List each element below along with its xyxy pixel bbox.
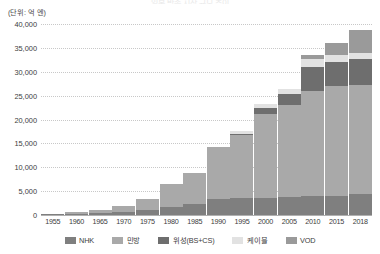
- plot-area: [41, 24, 372, 215]
- bar-column[interactable]: [325, 24, 348, 215]
- x-axis-tick-label: 2018: [349, 217, 372, 229]
- bar-segment[interactable]: [160, 184, 183, 206]
- y-axis-unit-label: (단위: 억 엔): [8, 7, 46, 17]
- bar-column[interactable]: [278, 24, 301, 215]
- chart-legend: NHK민방위성(BS+CS)케이블VOD: [0, 233, 380, 247]
- bar-segment[interactable]: [112, 212, 135, 215]
- x-axis-tick-label: 1955: [41, 217, 64, 229]
- bar-column[interactable]: [301, 24, 324, 215]
- bar-segment[interactable]: [160, 207, 183, 215]
- x-axis-tick-label: 1970: [112, 217, 135, 229]
- bar-column[interactable]: [136, 24, 159, 215]
- x-axis-tick-label: 2000: [254, 217, 277, 229]
- bar-segment[interactable]: [254, 114, 277, 197]
- x-axis-tick-label: 2010: [301, 217, 324, 229]
- legend-swatch-icon: [286, 237, 297, 244]
- bar-column[interactable]: [207, 24, 230, 215]
- bar-segment[interactable]: [254, 198, 277, 215]
- bar-group: [41, 24, 372, 215]
- bar-segment[interactable]: [183, 204, 206, 215]
- bar-segment[interactable]: [183, 173, 206, 204]
- bar-segment[interactable]: [207, 199, 230, 215]
- legend-swatch-icon: [65, 237, 76, 244]
- bar-segment[interactable]: [41, 214, 64, 215]
- bar-segment[interactable]: [325, 55, 348, 62]
- chart-title-cropped: 일본 방송 시장 규모 추이: [0, 0, 380, 4]
- gridline: [41, 215, 372, 216]
- legend-label: 민방: [127, 235, 141, 245]
- legend-item[interactable]: VOD: [286, 236, 316, 245]
- bar-segment[interactable]: [301, 91, 324, 196]
- bar-segment[interactable]: [230, 135, 253, 198]
- bar-segment[interactable]: [301, 196, 324, 215]
- y-axis-tick-label: 10,000: [0, 163, 37, 172]
- x-axis-tick-label: 1995: [230, 217, 253, 229]
- bar-column[interactable]: [41, 24, 64, 215]
- bar-segment[interactable]: [254, 108, 277, 115]
- bar-column[interactable]: [349, 24, 372, 215]
- bar-column[interactable]: [230, 24, 253, 215]
- bar-segment[interactable]: [325, 196, 348, 215]
- bar-column[interactable]: [112, 24, 135, 215]
- bar-segment[interactable]: [325, 86, 348, 195]
- y-axis-tick-label: 30,000: [0, 67, 37, 76]
- bar-segment[interactable]: [301, 67, 324, 91]
- legend-swatch-icon: [112, 237, 123, 244]
- bar-segment[interactable]: [349, 30, 372, 53]
- bar-segment[interactable]: [278, 94, 301, 105]
- bar-segment[interactable]: [65, 214, 88, 215]
- y-axis-tick-label: 40,000: [0, 20, 37, 29]
- x-axis-tick-label: 1990: [207, 217, 230, 229]
- x-axis-ticks: 1955196019651970197519801985199019952000…: [41, 217, 372, 229]
- legend-swatch-icon: [158, 237, 169, 244]
- x-axis-tick-label: 1965: [89, 217, 112, 229]
- chart-container: 일본 방송 시장 규모 추이 (단위: 억 엔) 05,00010,00015,…: [0, 0, 380, 254]
- bar-column[interactable]: [65, 24, 88, 215]
- bar-segment[interactable]: [136, 199, 159, 210]
- legend-item[interactable]: 케이블: [232, 235, 267, 245]
- legend-item[interactable]: 민방: [112, 235, 140, 245]
- legend-item[interactable]: NHK: [65, 236, 94, 245]
- y-axis-tick-label: 15,000: [0, 139, 37, 148]
- bar-segment[interactable]: [325, 43, 348, 55]
- bar-segment[interactable]: [278, 105, 301, 197]
- bar-segment[interactable]: [325, 62, 348, 87]
- x-axis-tick-label: 1980: [160, 217, 183, 229]
- bar-segment[interactable]: [89, 213, 112, 215]
- bar-segment[interactable]: [301, 59, 324, 68]
- bar-segment[interactable]: [349, 194, 372, 215]
- bar-column[interactable]: [183, 24, 206, 215]
- bar-segment[interactable]: [136, 210, 159, 215]
- bar-column[interactable]: [254, 24, 277, 215]
- bar-segment[interactable]: [207, 147, 230, 200]
- x-axis-tick-label: 1985: [183, 217, 206, 229]
- bar-segment[interactable]: [349, 85, 372, 194]
- y-axis-tick-label: 35,000: [0, 43, 37, 52]
- legend-label: NHK: [79, 236, 94, 245]
- legend-item[interactable]: 위성(BS+CS): [158, 235, 214, 245]
- bar-segment[interactable]: [278, 197, 301, 215]
- bar-column[interactable]: [89, 24, 112, 215]
- y-axis-tick-label: 5,000: [0, 187, 37, 196]
- legend-label: 위성(BS+CS): [173, 235, 215, 245]
- y-axis-tick-label: 20,000: [0, 115, 37, 124]
- legend-label: VOD: [300, 236, 315, 245]
- y-axis-tick-label: 0: [0, 211, 37, 220]
- x-axis-tick-label: 2015: [325, 217, 348, 229]
- x-axis-tick-label: 2005: [278, 217, 301, 229]
- bar-segment[interactable]: [230, 198, 253, 215]
- bar-segment[interactable]: [349, 59, 372, 84]
- x-axis-tick-label: 1975: [136, 217, 159, 229]
- y-axis-tick-label: 25,000: [0, 91, 37, 100]
- legend-label: 케이블: [247, 235, 268, 245]
- bar-column[interactable]: [160, 24, 183, 215]
- legend-swatch-icon: [232, 237, 243, 244]
- x-axis-tick-label: 1960: [65, 217, 88, 229]
